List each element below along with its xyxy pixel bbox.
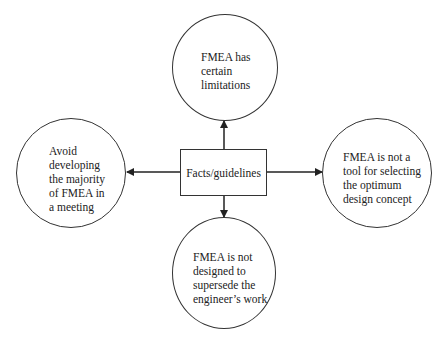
- text-line: FMEA is not a: [343, 150, 421, 164]
- text-line: limitations: [201, 78, 251, 92]
- center-label: Facts/guidelines: [186, 167, 261, 179]
- node-bottom-text: FMEA is not designed to supersede the en…: [193, 250, 267, 306]
- node-top-text: FMEA has certain limitations: [201, 50, 251, 92]
- text-line: the majority: [49, 172, 105, 186]
- text-line: engineer’s work: [193, 292, 267, 306]
- text-line: FMEA has: [201, 50, 251, 64]
- text-line: FMEA is not: [193, 250, 267, 264]
- node-left-text: Avoid developing the majority of FMEA in…: [49, 144, 105, 214]
- node-right-text: FMEA is not a tool for selecting the opt…: [343, 150, 421, 206]
- center-box: Facts/guidelines: [180, 149, 267, 196]
- text-line: designed to: [193, 264, 267, 278]
- text-line: a meeting: [49, 200, 105, 214]
- text-line: supersede the: [193, 278, 267, 292]
- text-line: certain: [201, 64, 251, 78]
- text-line: of FMEA in: [49, 186, 105, 200]
- text-line: Avoid: [49, 144, 105, 158]
- text-line: developing: [49, 158, 105, 172]
- text-line: tool for selecting: [343, 164, 421, 178]
- text-line: design concept: [343, 192, 421, 206]
- text-line: the optimum: [343, 178, 421, 192]
